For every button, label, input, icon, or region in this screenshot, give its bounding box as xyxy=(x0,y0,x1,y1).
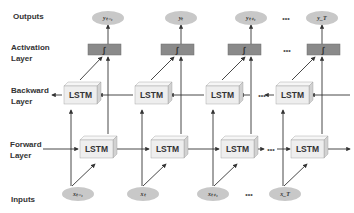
row-label-activation-1: Activation xyxy=(11,43,50,52)
output-node-4: y_T xyxy=(306,11,338,25)
bidirectional-lstm-diagram: Outputs Activation Layer Backward Layer … xyxy=(0,0,354,213)
activation-ellipsis: ••• xyxy=(283,47,291,54)
input-node-1: xₜ₋₁ xyxy=(62,187,94,201)
svg-text:x_T: x_T xyxy=(279,191,290,197)
forward-lstm-4: LSTM xyxy=(291,136,328,158)
svg-text:LSTM: LSTM xyxy=(69,90,92,100)
input-ellipsis: ••• xyxy=(245,191,253,198)
forward-lstm-2: LSTM xyxy=(151,136,188,158)
forward-lstm-3: LSTM xyxy=(221,136,258,158)
svg-text:y_T: y_T xyxy=(316,15,327,21)
svg-text:xₜ₊₁: xₜ₊₁ xyxy=(207,191,218,197)
svg-text:LSTM: LSTM xyxy=(140,90,163,100)
svg-text:xₜ: xₜ xyxy=(140,191,147,197)
input-node-3: xₜ₊₁ xyxy=(197,187,229,201)
forward-ellipsis: ••• xyxy=(267,146,275,153)
forward-lstm-1: LSTM xyxy=(80,136,117,158)
row-label-forward-1: Forward xyxy=(10,140,42,149)
svg-text:LSTM: LSTM xyxy=(85,144,108,154)
svg-text:LSTM: LSTM xyxy=(296,144,319,154)
input-node-2: xₜ xyxy=(127,187,159,201)
backward-lstm-4: LSTM xyxy=(276,82,313,104)
output-node-1: yₜ₋₁ xyxy=(92,11,124,25)
backward-ellipsis: ••• xyxy=(258,92,266,99)
activation-block-3: ∫ xyxy=(228,44,261,55)
svg-text:yₜ: yₜ xyxy=(178,15,185,21)
svg-text:LSTM: LSTM xyxy=(156,144,179,154)
svg-text:LSTM: LSTM xyxy=(281,90,304,100)
row-label-backward-2: Layer xyxy=(11,97,32,106)
activation-block-4: ∫ xyxy=(307,44,340,55)
svg-text:yₜ₊₁: yₜ₊₁ xyxy=(245,15,256,21)
row-label-backward-1: Backward xyxy=(11,86,49,95)
output-ellipsis: ••• xyxy=(282,15,290,22)
row-label-forward-2: Layer xyxy=(10,151,31,160)
svg-text:LSTM: LSTM xyxy=(211,90,234,100)
backward-lstm-3: LSTM xyxy=(206,82,243,104)
output-node-2: yₜ xyxy=(165,11,197,25)
activation-block-1: ∫ xyxy=(88,44,121,55)
backward-lstm-2: LSTM xyxy=(135,82,172,104)
svg-text:yₜ₋₁: yₜ₋₁ xyxy=(102,15,113,21)
input-node-4: x_T xyxy=(269,187,301,201)
svg-text:LSTM: LSTM xyxy=(226,144,249,154)
row-label-activation-2: Layer xyxy=(11,54,32,63)
backward-lstm-1: LSTM xyxy=(64,82,101,104)
row-label-inputs: Inputs xyxy=(11,195,36,204)
row-label-outputs: Outputs xyxy=(13,12,44,21)
svg-text:xₜ₋₁: xₜ₋₁ xyxy=(72,191,83,197)
activation-block-2: ∫ xyxy=(161,44,194,55)
output-node-3: yₜ₊₁ xyxy=(235,11,267,25)
